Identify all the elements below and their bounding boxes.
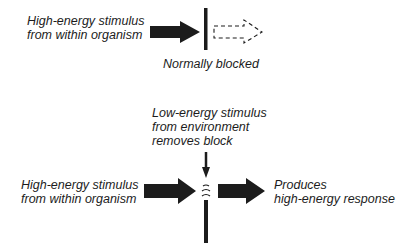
bottom-output-arrow-icon [218, 178, 265, 204]
top-block-bar [204, 8, 208, 50]
trigger-arrow-icon [202, 167, 210, 178]
removed-block-marks [202, 185, 210, 196]
bottom-block-bar [204, 200, 208, 243]
bottom-input-arrow-icon [144, 178, 196, 204]
top-input-arrow-icon [150, 21, 200, 43]
top-blocked-arrow-icon [214, 20, 262, 43]
diagram-shapes [0, 0, 412, 250]
